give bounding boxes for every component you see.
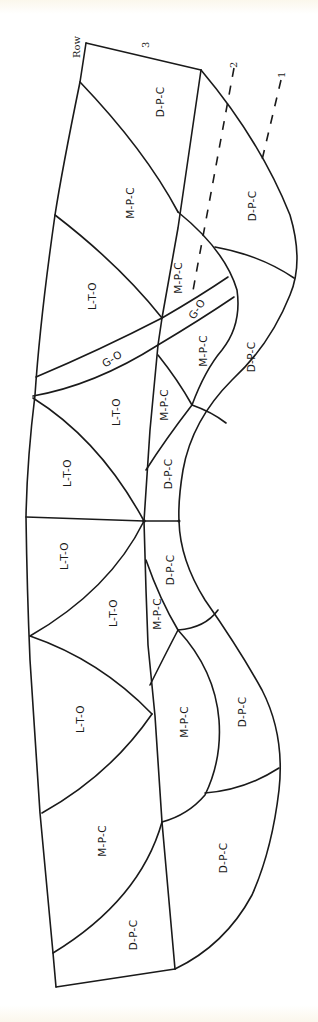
region-label: D-P-C (127, 920, 139, 951)
row-labels: Row 3 2 1 (71, 35, 287, 78)
region-label: D-P-C (154, 87, 166, 118)
row-2-dashed-line (192, 68, 234, 296)
region-label: M-P-C (197, 335, 209, 367)
region-label: M-P-C (158, 389, 170, 421)
region-label: L-T-O (107, 599, 119, 627)
region-label: M-P-C (124, 187, 136, 219)
region-label: D-P-C (246, 191, 258, 222)
region-label: D-P-C (164, 555, 176, 586)
diagram-page: Row 3 2 1 D-P-C M-P-C D-P-C L-T-O M-P-C … (0, 0, 318, 1022)
row-3-label: 3 (140, 42, 151, 48)
region-label: D-P-C (236, 697, 248, 728)
row-1-label: 1 (276, 72, 287, 78)
region-label: D-P-C (245, 342, 257, 373)
region-label: M-P-C (172, 262, 184, 294)
row-dashed-lines (192, 68, 281, 296)
region-label: D-P-C (217, 843, 229, 874)
row-2-label: 2 (228, 62, 239, 68)
region-label: L-T-O (58, 542, 70, 570)
region-label: D-P-C (162, 459, 174, 490)
region-map-diagram: Row 3 2 1 D-P-C M-P-C D-P-C L-T-O M-P-C … (0, 0, 318, 1022)
region-label: M-P-C (151, 598, 163, 630)
region-label: L-T-O (61, 459, 73, 487)
row-axis-title: Row (71, 35, 82, 58)
region-label: L-T-O (110, 398, 122, 426)
region-label: M-P-C (178, 706, 190, 738)
region-label: L-T-O (86, 282, 98, 310)
row-1-dashed-line (262, 80, 281, 160)
region-label: L-T-O (74, 705, 86, 733)
spine-line (144, 70, 201, 969)
region-label: M-P-C (96, 825, 108, 857)
